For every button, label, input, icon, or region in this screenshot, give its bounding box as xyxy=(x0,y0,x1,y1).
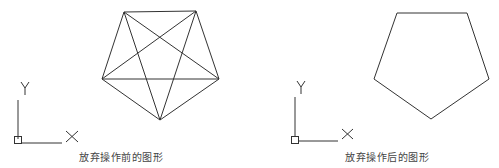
y-axis-label xyxy=(21,82,29,95)
pentagon-after xyxy=(374,13,489,119)
x-axis-label xyxy=(342,129,353,139)
caption-after: 放弃操作后的图形 xyxy=(345,149,429,164)
diagonal xyxy=(124,12,160,120)
drawing-canvas xyxy=(0,0,499,168)
diagonal xyxy=(102,11,196,79)
ucs-icon-after xyxy=(292,81,354,144)
y-axis-label xyxy=(297,81,305,94)
x-axis-label xyxy=(66,131,78,142)
diagonal xyxy=(124,12,219,79)
diagonal xyxy=(160,11,196,120)
ucs-icon-before xyxy=(15,82,79,144)
pentagon-before xyxy=(102,11,219,120)
caption-before: 放弃操作前的图形 xyxy=(79,149,163,164)
